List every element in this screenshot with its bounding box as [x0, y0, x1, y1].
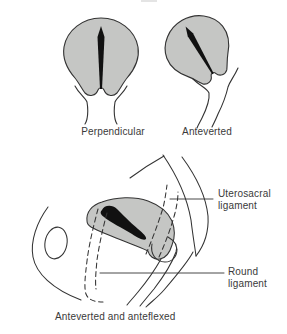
pubic-symphysis: [42, 225, 69, 260]
sacrum-outer-curve: [182, 157, 208, 256]
uterosacral-ligament-label: Uterosacral ligament: [218, 188, 271, 211]
anteverted-uterus-figure: [154, 4, 244, 128]
anteverted-label: Anteverted: [147, 126, 267, 138]
vagina-outline-right: [212, 68, 238, 127]
uterosacral-ligament-label-line2: ligament: [218, 200, 271, 212]
round-ligament-label-line2: ligament: [228, 278, 267, 290]
anteverted-anteflexed-caption: Anteverted and anteflexed: [55, 311, 176, 323]
pelvic-brim-line: [130, 156, 164, 178]
round-ligament-label: Round ligament: [228, 266, 267, 289]
abdominal-wall-arc: [32, 207, 81, 300]
page-crop-artifact: [141, 0, 157, 2]
uterosacral-ligament-label-line1: Uterosacral: [218, 188, 271, 200]
medical-figure: Perpendicular Anteverted Uterosacral lig…: [0, 0, 287, 334]
perpendicular-uterus-figure: [64, 18, 139, 124]
pelvis-sagittal-figure: [32, 155, 224, 307]
round-ligament-label-line1: Round: [228, 266, 267, 278]
rectum-line: [146, 252, 193, 307]
vagina-outline-left: [193, 79, 209, 128]
